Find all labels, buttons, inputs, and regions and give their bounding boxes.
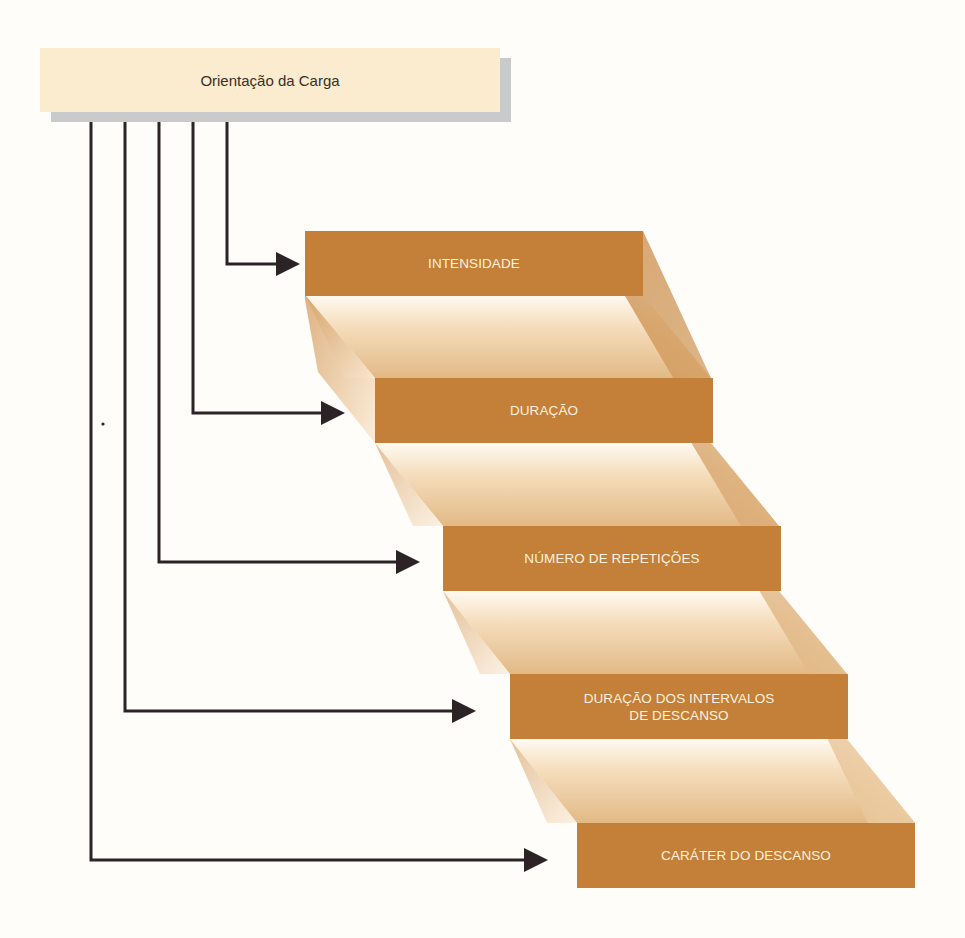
step-intensidade: INTENSIDADE [305,231,643,296]
root-node: Orientação da Carga [40,48,500,112]
step-label: NÚMERO DE REPETIÇÕES [524,550,699,567]
staircase-diagram [0,0,965,938]
connector-intensidade [227,122,280,264]
root-node-label: Orientação da Carga [200,72,339,89]
arrowhead-icon [396,550,420,574]
step-duracao-intervalos: DURAÇÃO DOS INTERVALOS DE DESCANSO [510,674,848,739]
step-numero-repeticoes: NÚMERO DE REPETIÇÕES [443,526,781,591]
step-label: DURAÇÃO [510,402,578,419]
step-label: CARÁTER DO DESCANSO [661,847,831,864]
stray-dot [101,422,104,425]
arrowhead-icon [321,401,345,425]
arrowhead-icon [276,252,300,276]
step-carater-descanso: CARÁTER DO DESCANSO [577,823,915,888]
step-label: DURAÇÃO DOS INTERVALOS DE DESCANSO [584,690,775,724]
arrowhead-icon [452,699,476,723]
step-duracao: DURAÇÃO [375,378,713,443]
step-label: INTENSIDADE [428,255,520,272]
arrowhead-icon [524,848,548,872]
